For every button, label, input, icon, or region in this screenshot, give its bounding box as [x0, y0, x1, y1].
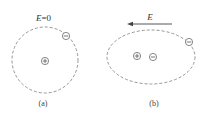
field-label-a: E=0 [35, 13, 52, 23]
field-arrow-left [127, 22, 172, 26]
polarization-diagram: E=0 (a) E [0, 0, 207, 121]
panel-a: E=0 (a) [12, 13, 78, 108]
field-label-b: E [146, 12, 153, 22]
arrow-head-icon [127, 22, 133, 26]
panel-b: E (b) [107, 12, 195, 108]
nucleus-charge-b [133, 52, 140, 59]
caption-a: (a) [39, 99, 48, 108]
field-value-a: =0 [42, 13, 52, 23]
nucleus-charge-a [41, 57, 48, 64]
electron-cloud-center-b [149, 53, 156, 60]
electron-charge-b [185, 38, 192, 45]
electron-charge-a [62, 32, 69, 39]
caption-b: (b) [149, 99, 159, 108]
